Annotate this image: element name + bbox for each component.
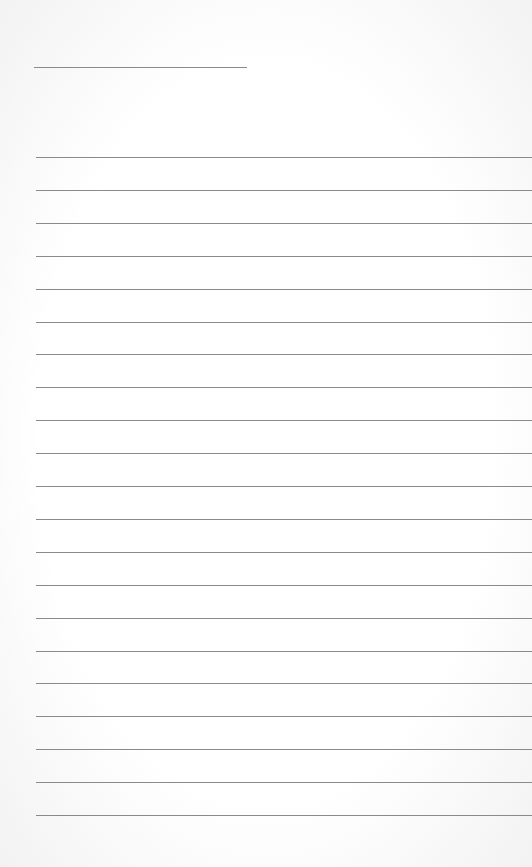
ruled-line — [36, 486, 532, 487]
ruled-line — [36, 387, 532, 388]
ruled-line — [36, 618, 532, 619]
ruled-line — [36, 157, 532, 158]
ruled-line — [36, 256, 532, 257]
ruled-line — [36, 782, 532, 783]
title-line — [34, 67, 247, 68]
ruled-line — [36, 354, 532, 355]
ruled-line — [36, 420, 532, 421]
ruled-line — [36, 651, 532, 652]
ruled-line — [36, 322, 532, 323]
paper-sheet — [0, 0, 532, 867]
ruled-line — [36, 289, 532, 290]
ruled-line — [36, 683, 532, 684]
ruled-line — [36, 519, 532, 520]
ruled-line — [36, 453, 532, 454]
ruled-line — [36, 815, 532, 816]
ruled-line — [36, 749, 532, 750]
ruled-line — [36, 716, 532, 717]
ruled-line — [36, 223, 532, 224]
ruled-line — [36, 585, 532, 586]
ruled-line — [36, 552, 532, 553]
ruled-line — [36, 190, 532, 191]
